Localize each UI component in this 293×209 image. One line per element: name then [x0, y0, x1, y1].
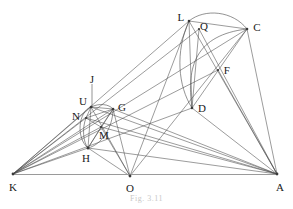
segment-K-H: [13, 148, 88, 174]
vertex-D: [191, 107, 194, 110]
figure-caption: Fig. 3.11: [0, 194, 293, 203]
point-label-F: F: [224, 65, 230, 76]
arcs-right-figure: [180, 13, 247, 108]
segment-K-C: [13, 29, 247, 174]
geometry-figure: K O A L Q C F D J U G N M H Fig. 3.11: [0, 0, 293, 209]
point-label-N: N: [72, 111, 80, 122]
arcs-left-figure: [80, 105, 113, 148]
vertex-A: [276, 173, 279, 176]
segment-O-L: [130, 21, 189, 176]
point-label-O: O: [126, 183, 134, 194]
point-label-L: L: [178, 12, 185, 23]
rays-from-K: [13, 21, 247, 174]
vertex-H: [87, 147, 90, 150]
point-label-J: J: [90, 74, 94, 85]
segment-K-G: [13, 109, 113, 174]
point-label-M: M: [99, 130, 109, 141]
vertex-U: [90, 106, 93, 109]
vertex-F: [217, 69, 219, 71]
segment-A-C: [247, 29, 277, 174]
vertex-L: [188, 20, 191, 23]
point-label-A: A: [276, 182, 284, 193]
segment-A-Q: [199, 29, 277, 174]
point-label-Q: Q: [200, 21, 208, 32]
point-label-K: K: [9, 182, 17, 193]
segment-A-G: [113, 109, 277, 174]
geometry-canvas: [0, 0, 293, 209]
vertex-N: [85, 117, 87, 119]
vertex-C: [246, 28, 249, 31]
segment-A-U: [91, 107, 277, 174]
point-label-H: H: [82, 153, 90, 164]
segment-N-M: [86, 118, 101, 127]
segment-K-Q: [13, 29, 199, 174]
segment-Q-D: [192, 29, 199, 108]
point-label-C: C: [253, 22, 261, 33]
point-label-D: D: [198, 103, 206, 114]
segment-K-M: [13, 127, 101, 174]
point-label-G: G: [118, 102, 126, 113]
arc-L-C-outer: [189, 13, 247, 29]
segment-K-N: [13, 118, 86, 174]
vertex-K: [12, 173, 15, 176]
segment-A-F: [218, 70, 277, 174]
segment-K-F: [13, 70, 218, 174]
vertex-G: [112, 108, 115, 111]
vertex-O: [129, 175, 132, 178]
segment-A-M: [101, 127, 277, 174]
segment-L-C: [189, 21, 247, 29]
point-label-U: U: [79, 96, 87, 107]
vertex-dots: [12, 20, 279, 178]
